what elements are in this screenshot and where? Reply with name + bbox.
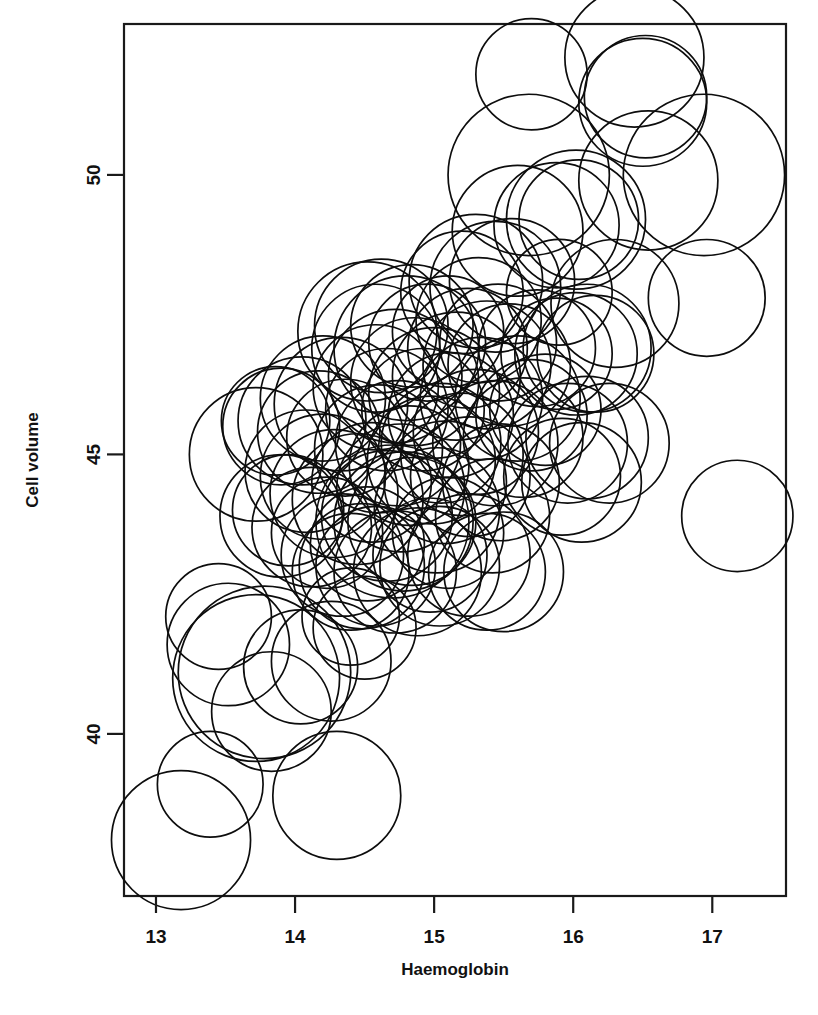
scatter-plot-canvas: 1314151617 404550 Haemoglobin Cell volum…: [0, 0, 818, 1015]
y-axis-ticks: 404550: [84, 164, 125, 744]
bubble-marker: [111, 771, 250, 910]
bubble-chart-figure: 1314151617 404550 Haemoglobin Cell volum…: [0, 0, 818, 1015]
x-tick-label: 13: [145, 926, 166, 947]
bubble-marker: [523, 284, 651, 412]
x-axis-title: Haemoglobin: [401, 960, 509, 979]
x-tick-label: 15: [424, 926, 446, 947]
y-axis-title: Cell volume: [23, 412, 42, 507]
plot-frame: [124, 24, 786, 896]
x-tick-label: 17: [702, 926, 723, 947]
x-tick-label: 16: [563, 926, 584, 947]
bubble-marker: [476, 19, 587, 130]
bubble-marker: [273, 731, 401, 859]
y-tick-label: 50: [84, 164, 105, 185]
bubble-marker: [167, 583, 289, 705]
plot-box-border: [124, 24, 786, 896]
y-tick-label: 40: [84, 723, 105, 744]
x-axis-ticks: 1314151617: [145, 896, 722, 947]
bubble-marker: [584, 35, 706, 157]
bubble-marker: [490, 354, 601, 465]
bubble-marker: [682, 460, 793, 571]
bubble-marker: [189, 388, 323, 522]
x-tick-label: 14: [284, 926, 306, 947]
bubble-marker: [244, 610, 358, 724]
bubble-series-layer: [111, 0, 792, 910]
bubble-marker: [526, 376, 648, 498]
bubble-marker: [648, 239, 765, 356]
y-tick-label: 45: [84, 443, 105, 465]
